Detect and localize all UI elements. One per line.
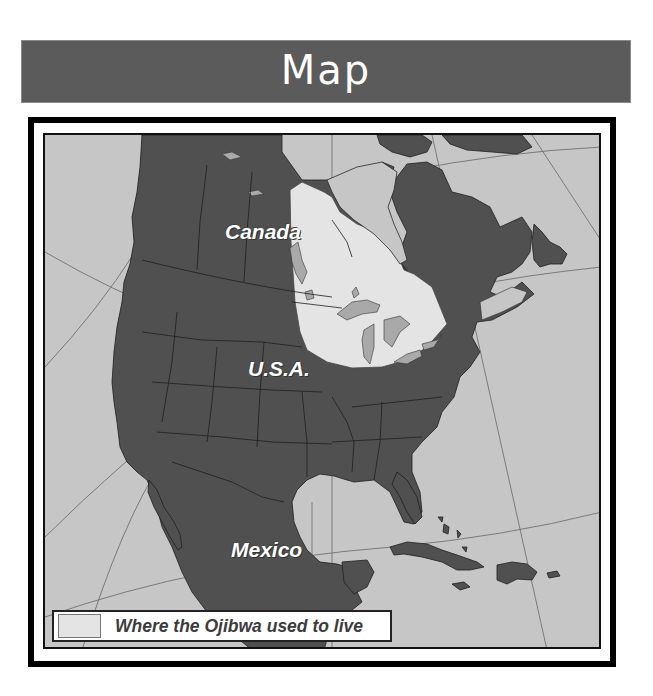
page-header: Map	[21, 40, 631, 103]
page-title: Map	[281, 47, 371, 93]
label-usa: U.S.A.	[248, 357, 310, 381]
map-graphic	[45, 135, 601, 649]
map-legend: Where the Ojibwa used to live	[52, 610, 392, 642]
legend-swatch-ojibwa	[58, 614, 101, 638]
label-canada: Canada	[225, 220, 301, 244]
north-america-map: Canada U.S.A. Mexico	[43, 133, 601, 649]
label-mexico: Mexico	[231, 538, 302, 562]
legend-text: Where the Ojibwa used to live	[115, 616, 363, 637]
